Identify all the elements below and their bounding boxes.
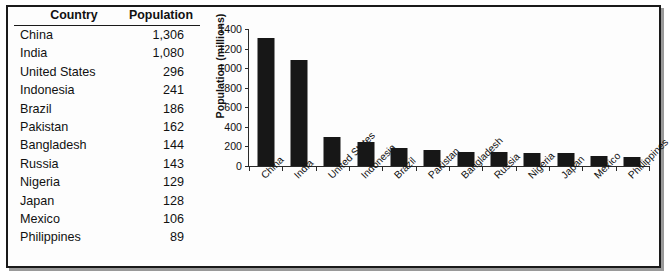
cell-population: 128 xyxy=(128,192,200,210)
y-axis-tick-label: 800 xyxy=(224,82,242,94)
population-table-panel: Country Population China1,306India1,080U… xyxy=(14,6,200,247)
cell-population: 1,306 xyxy=(128,26,200,45)
column-header-population: Population xyxy=(128,6,200,26)
table-row: Indonesia241 xyxy=(14,81,200,99)
bar-chart-panel: Population (millions) 020040060080010001… xyxy=(196,8,658,260)
x-axis-tick-mark xyxy=(616,166,617,171)
y-axis-tick-label: 1200 xyxy=(218,43,242,55)
table-row: Nigeria129 xyxy=(14,173,200,191)
bar-slot xyxy=(382,29,415,166)
table-row: Russia143 xyxy=(14,155,200,173)
chart-plot-area: ChinaIndiaUnited StatesIndonesiaBrazilPa… xyxy=(248,29,649,167)
cell-country: Russia xyxy=(14,155,128,173)
cell-population: 162 xyxy=(128,118,200,136)
bar-slot xyxy=(616,29,649,166)
table-row: Brazil186 xyxy=(14,100,200,118)
bar-slot xyxy=(316,29,349,166)
cell-country: Japan xyxy=(14,192,128,210)
cell-population: 89 xyxy=(128,228,200,246)
bar-slot xyxy=(349,29,382,166)
x-axis-tick-mark xyxy=(582,166,583,171)
bar xyxy=(290,60,307,166)
cell-population: 106 xyxy=(128,210,200,228)
x-axis-tick-mark xyxy=(516,166,517,171)
cell-country: Indonesia xyxy=(14,81,128,99)
cell-country: Bangladesh xyxy=(14,136,128,154)
bar-slot xyxy=(416,29,449,166)
chart-y-axis-tick-labels: 0200400600800100012001400 xyxy=(210,8,246,168)
cell-country: China xyxy=(14,26,128,45)
x-axis-tick-mark xyxy=(549,166,550,171)
table-header-row: Country Population xyxy=(14,6,200,26)
table-row: Pakistan162 xyxy=(14,118,200,136)
x-axis-tick-mark xyxy=(482,166,483,171)
table-row: China1,306 xyxy=(14,26,200,45)
bar xyxy=(257,38,274,166)
cell-country: Nigeria xyxy=(14,173,128,191)
cell-population: 186 xyxy=(128,100,200,118)
y-axis-tick-label: 0 xyxy=(236,160,242,172)
y-axis-tick-label: 600 xyxy=(224,101,242,113)
table-header: Country Population xyxy=(14,6,200,26)
cell-country: Philippines xyxy=(14,228,128,246)
bar-slot xyxy=(582,29,615,166)
y-axis-tick-label: 1400 xyxy=(218,23,242,35)
table-row: Philippines89 xyxy=(14,228,200,246)
x-axis-tick-mark xyxy=(249,166,250,171)
chart-plot-wrapper: 0200400600800100012001400 ChinaIndiaUnit… xyxy=(196,8,658,260)
cell-population: 296 xyxy=(128,63,200,81)
y-axis-tick-label: 400 xyxy=(224,121,242,133)
column-header-country: Country xyxy=(14,6,128,26)
cell-population: 1,080 xyxy=(128,44,200,62)
population-table: Country Population China1,306India1,080U… xyxy=(14,6,200,247)
x-axis-tick-mark xyxy=(416,166,417,171)
bar-slot xyxy=(449,29,482,166)
x-axis-tick-mark xyxy=(449,166,450,171)
y-axis-tick-label: 1000 xyxy=(218,62,242,74)
table-row: Japan128 xyxy=(14,192,200,210)
cell-country: India xyxy=(14,44,128,62)
bar-slot xyxy=(549,29,582,166)
x-axis-tick-mark xyxy=(316,166,317,171)
cell-population: 144 xyxy=(128,136,200,154)
bar-slot xyxy=(282,29,315,166)
cell-population: 143 xyxy=(128,155,200,173)
table-row: India1,080 xyxy=(14,44,200,62)
y-axis-tick-label: 200 xyxy=(224,140,242,152)
cell-country: Mexico xyxy=(14,210,128,228)
x-axis-tick-mark xyxy=(382,166,383,171)
table-row: Mexico106 xyxy=(14,210,200,228)
cell-population: 241 xyxy=(128,81,200,99)
cell-country: Brazil xyxy=(14,100,128,118)
cell-country: United States xyxy=(14,63,128,81)
table-body: China1,306India1,080United States296Indo… xyxy=(14,26,200,247)
x-axis-tick-mark xyxy=(649,166,650,171)
bar-slot xyxy=(249,29,282,166)
x-axis-tick-mark xyxy=(282,166,283,171)
table-row: Bangladesh144 xyxy=(14,136,200,154)
x-axis-tick-mark xyxy=(349,166,350,171)
bar-slot xyxy=(516,29,549,166)
cell-population: 129 xyxy=(128,173,200,191)
table-row: United States296 xyxy=(14,63,200,81)
bar-slot xyxy=(482,29,515,166)
cell-country: Pakistan xyxy=(14,118,128,136)
